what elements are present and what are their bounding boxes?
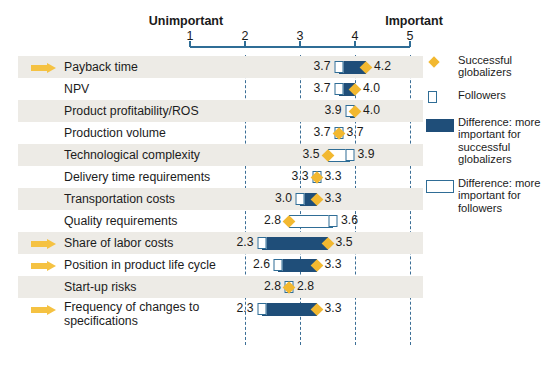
square-icon [428, 91, 437, 103]
value-label-right: 3.9 [358, 147, 375, 161]
value-label-right: 3.7 [347, 125, 364, 139]
value-label-left: 3.3 [292, 169, 309, 183]
followers-marker [257, 237, 266, 249]
value-label-right: 2.8 [297, 279, 314, 293]
legend-item[interactable]: Followers [424, 91, 550, 109]
value-label-left: 3.5 [303, 147, 320, 161]
value-label-left: 2.8 [264, 279, 281, 293]
value-label-left: 3.9 [325, 103, 342, 117]
followers-marker [274, 259, 283, 271]
followers-marker [296, 193, 305, 205]
value-label-right: 3.6 [341, 213, 358, 227]
value-label-right: 3.3 [325, 191, 342, 205]
legend: Successful globalizersFollowersDifferenc… [424, 56, 550, 228]
value-label-right: 3.3 [325, 169, 342, 183]
value-label-left: 3.7 [314, 59, 331, 73]
difference-bar [262, 237, 328, 250]
value-label-right: 3.3 [325, 257, 342, 271]
followers-marker [345, 149, 354, 161]
difference-bar [262, 303, 317, 316]
tick-mark-3 [299, 41, 301, 47]
followers-marker [329, 215, 338, 227]
value-label-left: 2.6 [253, 257, 270, 271]
axis-label-unimportant: Unimportant [149, 14, 223, 28]
legend-label: Difference: more important for successfu… [458, 116, 550, 166]
value-label-left: 2.3 [237, 301, 254, 315]
value-label-right: 4.0 [363, 103, 380, 117]
value-label-right: 4.0 [363, 81, 380, 95]
legend-label: Difference: more important for followers [458, 177, 550, 214]
value-label-right: 3.3 [325, 301, 342, 315]
tick-mark-2 [244, 41, 246, 47]
legend-item[interactable]: Difference: more important for successfu… [424, 118, 550, 170]
light-bar-icon [426, 180, 454, 193]
legend-item[interactable]: Successful globalizers [424, 56, 550, 82]
followers-marker [334, 83, 343, 95]
tick-mark-1 [189, 41, 191, 47]
followers-marker [257, 303, 266, 315]
followers-marker [334, 61, 343, 73]
value-label-right: 4.2 [374, 59, 391, 73]
axis-label-important: Important [385, 14, 443, 28]
tick-mark-5 [409, 41, 411, 47]
chart-canvas: Unimportant Important 12345 Payback time… [0, 0, 552, 375]
value-label-right: 3.5 [336, 235, 353, 249]
diamond-icon [428, 56, 439, 67]
value-label-left: 3.7 [314, 125, 331, 139]
value-label-left: 2.3 [237, 235, 254, 249]
tick-mark-4 [354, 41, 356, 47]
legend-label: Successful globalizers [458, 54, 550, 79]
value-label-left: 3.7 [314, 81, 331, 95]
dark-bar-icon [426, 119, 454, 132]
value-label-left: 3.0 [275, 191, 292, 205]
legend-label: Followers [458, 89, 550, 101]
value-label-left: 2.8 [264, 213, 281, 227]
legend-item[interactable]: Difference: more important for followers [424, 179, 550, 219]
